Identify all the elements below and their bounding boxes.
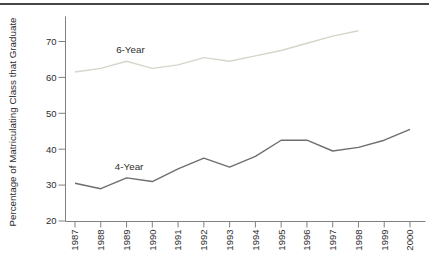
x-tick-label: 1995	[276, 230, 287, 251]
series-label-6-year: 6-Year	[116, 44, 145, 55]
x-tick-label: 1999	[379, 230, 390, 251]
x-tick-label: 1987	[69, 230, 80, 251]
x-tick-label: 1989	[121, 230, 132, 251]
x-tick-label: 1993	[224, 230, 235, 251]
x-tick-label: 1996	[301, 230, 312, 251]
x-tick-label: 1998	[353, 230, 364, 251]
y-tick-label: 40	[46, 144, 57, 155]
series-label-4-year: 4-Year	[115, 161, 144, 172]
x-tick-label: 1997	[327, 230, 338, 251]
y-tick-label: 30	[46, 179, 57, 190]
x-tick-label: 1992	[198, 230, 209, 251]
figure-container: 2030405060701987198819891990199119921993…	[0, 0, 429, 265]
y-tick-label: 50	[46, 108, 57, 119]
y-tick-label: 20	[46, 215, 57, 226]
x-tick-label: 1988	[95, 230, 106, 251]
x-tick-label: 1990	[147, 230, 158, 251]
x-tick-label: 1994	[250, 230, 261, 251]
x-tick-label: 2000	[404, 230, 415, 251]
series-line-4-year	[75, 129, 410, 188]
y-tick-label: 60	[46, 72, 57, 83]
x-tick-label: 1991	[172, 230, 183, 251]
y-tick-label: 70	[46, 36, 57, 47]
graduation-rate-line-chart: 2030405060701987198819891990199119921993…	[0, 0, 429, 265]
y-axis-title: Percentage of Matriculating Class that G…	[7, 17, 18, 227]
